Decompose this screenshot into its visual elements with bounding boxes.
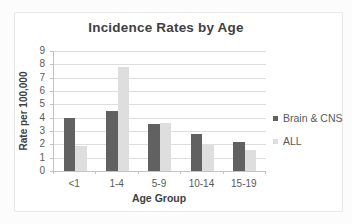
y-tick-label-1: 1 [39,153,45,163]
y-tick-mark-5 [50,104,53,105]
bar-brain-cns-15-19 [233,142,245,171]
chart-title: Incidence Rates by Age [35,20,297,35]
y-tick-label-8: 8 [39,59,45,69]
y-tick-mark-4 [50,118,53,119]
y-tick-label-2: 2 [39,139,45,149]
y-tick-mark-8 [50,64,53,65]
legend-swatch-brain-cns-icon [273,116,278,121]
bar-group-10-14 [181,51,223,171]
legend: Brain & CNSALL [273,111,343,148]
bar-all-10-14 [202,144,214,171]
y-tick-label-7: 7 [39,73,45,83]
y-axis: 0123456789 [15,51,53,171]
legend-item-brain-cns: Brain & CNS [273,111,343,125]
bar-brain-cns-1 [64,118,76,171]
bar-all-1 [75,146,87,171]
bar-group-1-4 [96,51,138,171]
x-tick-label-10-14: 10-14 [180,178,222,189]
x-tick-label-5-9: 5-9 [138,178,180,189]
x-axis-title: Age Group [53,192,265,204]
bar-brain-cns-10-14 [191,134,203,171]
x-tick-mark-5 [265,171,266,174]
x-tick-mark-4 [223,171,224,174]
legend-item-all: ALL [273,134,343,148]
legend-label-brain-cns: Brain & CNS [283,112,343,124]
y-tick-label-9: 9 [39,46,45,56]
bar-all-5-9 [160,123,172,171]
x-tick-mark-3 [180,171,181,174]
y-tick-mark-9 [50,51,53,52]
x-axis-labels: <11-45-910-1415-19 [53,178,265,189]
bar-brain-cns-5-9 [148,124,160,171]
legend-swatch-all-icon [273,139,278,144]
x-tick-mark-2 [138,171,139,174]
x-tick-label-1-4: 1-4 [95,178,137,189]
y-tick-label-3: 3 [39,126,45,136]
x-axis-tick-marks [53,171,265,175]
x-tick-mark-1 [95,171,96,174]
plot-area [53,51,266,172]
y-tick-label-0: 0 [39,166,45,176]
y-tick-label-5: 5 [39,99,45,109]
legend-label-all: ALL [283,135,302,147]
bar-group-5-9 [139,51,181,171]
bar-group-15-19 [224,51,266,171]
y-tick-mark-7 [50,78,53,79]
y-tick-mark-3 [50,131,53,132]
y-tick-mark-2 [50,144,53,145]
bar-group-1 [54,51,96,171]
bar-all-1-4 [118,67,130,171]
bar-all-15-19 [245,150,257,171]
y-tick-label-6: 6 [39,86,45,96]
y-tick-label-4: 4 [39,113,45,123]
x-tick-mark-0 [53,171,54,174]
x-tick-label-1: <1 [53,178,95,189]
y-tick-mark-6 [50,91,53,92]
bar-brain-cns-1-4 [106,111,118,171]
x-tick-label-15-19: 15-19 [223,178,265,189]
y-tick-mark-1 [50,158,53,159]
chart-frame: Incidence Rates by Age Rate per 100,000 … [14,12,343,212]
